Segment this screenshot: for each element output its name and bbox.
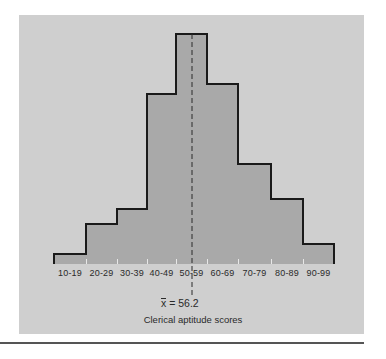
x-axis-label: 30-39 bbox=[117, 268, 147, 278]
x-axis-tick bbox=[207, 259, 208, 264]
x-axis-label: 80-89 bbox=[271, 268, 303, 278]
x-axis-title: Clerical aptitude scores bbox=[0, 314, 386, 325]
x-axis-label: 10-19 bbox=[54, 268, 86, 278]
x-axis-label: 20-29 bbox=[86, 268, 117, 278]
x-axis-label: 50-59 bbox=[176, 268, 207, 278]
separator-rule bbox=[0, 342, 364, 344]
x-axis-tick bbox=[86, 259, 87, 264]
mean-value: = 56.2 bbox=[166, 297, 198, 309]
x-axis-tick bbox=[117, 259, 118, 264]
x-axis-tick bbox=[271, 259, 272, 264]
mean-symbol: x bbox=[161, 297, 166, 309]
x-axis-label: 40-49 bbox=[147, 268, 176, 278]
x-axis-tick bbox=[303, 259, 304, 264]
x-axis-tick bbox=[238, 259, 239, 264]
x-axis-label: 90-99 bbox=[303, 268, 334, 278]
x-axis-tick bbox=[147, 259, 148, 264]
x-axis-label: 70-79 bbox=[238, 268, 271, 278]
x-axis-tick bbox=[176, 259, 177, 264]
x-axis-label: 60-69 bbox=[207, 268, 238, 278]
mean-annotation: x = 56.2 bbox=[161, 297, 199, 309]
